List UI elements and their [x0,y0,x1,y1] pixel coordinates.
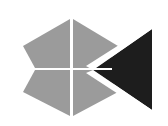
logo-canvas [0,0,168,126]
white-vertical-gap [70,17,73,118]
logo-svg [0,0,168,126]
white-horizontal-pinch [30,68,112,70]
